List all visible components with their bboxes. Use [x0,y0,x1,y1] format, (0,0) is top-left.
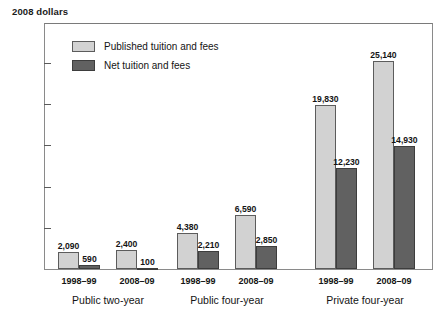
bar-value-label: 100 [126,257,170,267]
legend-item-net: Net tuition and fees [72,58,219,73]
bar-value-label: 14,930 [383,135,427,145]
bar-published [373,61,394,269]
legend-label-published: Published tuition and fees [104,41,219,52]
legend-item-published: Published tuition and fees [72,39,219,54]
bar-net [394,146,415,270]
y-axis-tick-mark [44,63,51,64]
y-axis-tick-mark [44,187,51,188]
x-axis-group-label: Public two-year [48,294,168,306]
legend-swatch-published-icon [72,41,95,52]
y-axis-tick-mark [44,145,51,146]
bar-published [177,233,198,269]
x-axis-tick-label: 2008–09 [113,276,161,286]
bar-value-label: 2,850 [245,235,289,245]
bar-net [79,265,100,270]
x-axis-tick-label: 2008–09 [370,276,418,286]
chart-legend: Published tuition and fees Net tuition a… [72,39,219,77]
x-axis-tick-label: 1998–99 [174,276,222,286]
y-axis-tick-mark [44,104,51,105]
bar-net [336,168,357,269]
bar-net [137,268,158,270]
chart-axis-title: 2008 dollars [12,6,68,17]
bar-value-label: 2,400 [105,239,149,249]
bar-value-label: 25,140 [362,50,406,60]
bar-value-label: 2,210 [187,240,231,250]
x-axis-group-label: Private four-year [305,294,425,306]
bar-value-label: 6,590 [224,204,268,214]
bar-value-label: 2,090 [47,241,91,251]
y-axis-tick-mark [44,228,51,229]
x-axis-tick-label: 1998–99 [55,276,103,286]
bar-published [315,105,336,269]
bar-net [256,246,277,270]
legend-swatch-net-icon [72,60,95,71]
bar-net [198,251,219,269]
bar-value-label: 590 [68,254,112,264]
bar-value-label: 12,230 [325,157,369,167]
x-axis-group-label: Public four-year [167,294,287,306]
bar-chart: 2008 dollars 5,00010,00015,00020,00025,0… [0,0,445,324]
bar-value-label: 4,380 [166,222,210,232]
legend-label-net: Net tuition and fees [104,60,190,71]
bar-value-label: 19,830 [304,94,348,104]
x-axis-tick-label: 1998–99 [312,276,360,286]
x-axis-tick-label: 2008–09 [232,276,280,286]
